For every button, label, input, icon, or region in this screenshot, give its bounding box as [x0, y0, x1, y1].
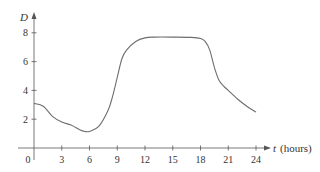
x-axis-arrow-icon: [264, 146, 271, 151]
x-tick-label: 15: [168, 154, 178, 165]
y-tick-label: 6: [23, 56, 28, 67]
x-tick-label: 9: [115, 154, 120, 165]
x-tick-label: 18: [196, 154, 206, 165]
x-axis-label-variable: t: [273, 142, 277, 154]
y-tick-label: 8: [23, 27, 28, 38]
axes: [18, 12, 271, 160]
line-chart: 036912151821242468 D t (hours): [0, 0, 320, 172]
y-tick-label: 2: [23, 114, 28, 125]
ticks: 036912151821242468: [23, 27, 261, 165]
x-tick-label: 24: [251, 154, 261, 165]
x-tick-label: 12: [140, 154, 150, 165]
y-axis-arrow-icon: [32, 12, 37, 19]
x-axis-label-unit: (hours): [280, 142, 312, 155]
x-tick-label: 3: [59, 154, 64, 165]
data-line: [34, 37, 256, 132]
y-tick-label: 4: [23, 85, 28, 96]
y-axis-label: D: [19, 11, 28, 23]
x-tick-label: 21: [223, 154, 233, 165]
x-tick-label: 0: [26, 154, 31, 165]
x-tick-label: 6: [87, 154, 92, 165]
